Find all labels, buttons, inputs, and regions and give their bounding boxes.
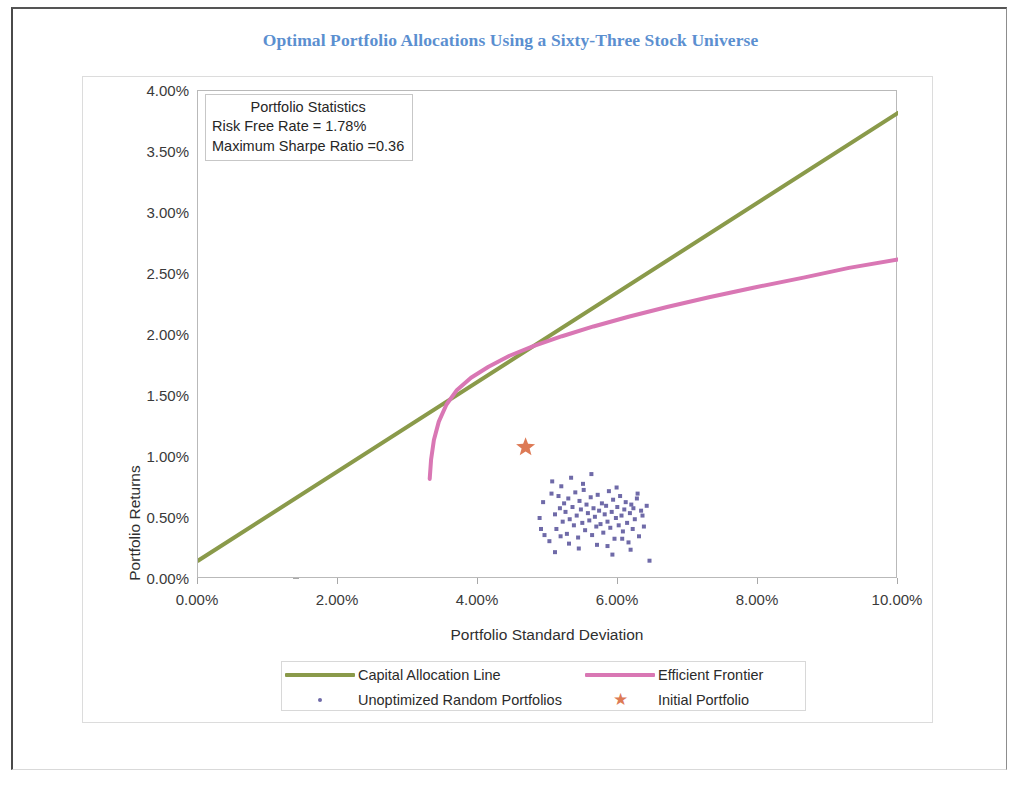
scatter-point: [538, 516, 542, 520]
scatter-point: [550, 479, 554, 483]
scatter-point: [590, 533, 594, 537]
y-axis-tick-label: 1.50%: [109, 387, 189, 404]
scatter-point: [559, 484, 563, 488]
y-axis-tick-label: 2.00%: [109, 326, 189, 343]
scatter-point: [580, 521, 584, 525]
scatter-point: [599, 522, 603, 526]
y-axis-tick-label: 0.00%: [109, 570, 189, 587]
legend-item[interactable]: ★Initial Portfolio: [582, 687, 807, 712]
statistics-heading: Portfolio Statistics: [212, 98, 404, 117]
scatter-point: [573, 490, 577, 494]
x-axis-tick-mark: [897, 578, 898, 584]
scatter-point: [559, 534, 563, 538]
x-axis-tick-label: 0.00%: [137, 591, 257, 608]
scatter-point: [583, 528, 587, 532]
scatter-point: [611, 498, 615, 502]
legend-dot-swatch: [318, 698, 322, 702]
scatter-point: [615, 505, 619, 509]
y-axis-tick-label: 3.50%: [109, 143, 189, 160]
plot-canvas: [198, 91, 898, 579]
legend-item[interactable]: Capital Allocation Line: [282, 662, 582, 687]
max-sharpe-ratio-text: Maximum Sharpe Ratio =0.36: [212, 137, 404, 156]
legend-item[interactable]: Efficient Frontier: [582, 662, 807, 687]
y-axis-tick-label: 1.00%: [109, 448, 189, 465]
scatter-point: [547, 539, 551, 543]
scatter-point: [543, 533, 547, 537]
scatter-point: [607, 489, 611, 493]
legend-line-swatch: [585, 673, 655, 677]
scatter-point: [558, 506, 562, 510]
scatter-point: [636, 492, 640, 496]
scatter-point: [541, 500, 545, 504]
legend-key-dot: [282, 698, 358, 702]
y-axis-tick-labels: 0.00%0.50%1.00%1.50%2.00%2.50%3.00%3.50%…: [103, 90, 189, 578]
scatter-point: [620, 514, 624, 518]
scatter-point: [610, 510, 614, 514]
scatter-point: [562, 501, 566, 505]
scatter-point: [603, 512, 607, 516]
scatter-point: [594, 525, 598, 529]
scatter-point: [576, 536, 580, 540]
scatter-point: [631, 527, 635, 531]
scatter-point: [578, 499, 582, 503]
scatter-point: [601, 531, 605, 535]
x-axis-tick-label: 8.00%: [697, 591, 817, 608]
risk-free-rate-text: Risk Free Rate = 1.78%: [212, 117, 404, 136]
x-axis-tick-mark: [197, 578, 198, 584]
scatter-point: [596, 493, 600, 497]
plot-area: [197, 90, 897, 578]
series-line-capital-allocation-line: [198, 113, 898, 561]
scatter-point: [585, 503, 589, 507]
scatter-point: [618, 494, 622, 498]
scatter-point: [553, 512, 557, 516]
legend-item[interactable]: Unoptimized Random Portfolios: [282, 687, 582, 712]
legend-key-line: [582, 673, 658, 677]
x-axis-tick-mark: [617, 578, 618, 584]
scatter-point: [589, 472, 593, 476]
initial-portfolio-star-marker: [516, 437, 535, 455]
legend-label: Capital Allocation Line: [358, 667, 501, 683]
scatter-point: [620, 537, 624, 541]
legend-key-star: ★: [582, 691, 658, 708]
scatter-point: [606, 520, 610, 524]
scatter-point: [566, 496, 570, 500]
legend-key-line: [282, 673, 358, 677]
scatter-point: [557, 494, 561, 498]
x-axis-tick-label: 10.00%: [837, 591, 957, 608]
scatter-point: [606, 544, 610, 548]
scatter-point: [633, 517, 637, 521]
scatter-point: [569, 476, 573, 480]
scatter-point: [642, 525, 646, 529]
scatter-point: [614, 516, 618, 520]
scatter-point: [539, 527, 543, 531]
y-axis-tick-label: 4.00%: [109, 82, 189, 99]
scatter-point: [561, 520, 565, 524]
portfolio-statistics-box: Portfolio Statistics Risk Free Rate = 1.…: [205, 94, 413, 161]
scatter-point: [597, 509, 601, 513]
scatter-point: [637, 534, 641, 538]
scatter-point: [553, 550, 557, 554]
x-axis-tick-mark: [477, 578, 478, 584]
scatter-point: [581, 482, 585, 486]
scatter-point: [635, 496, 639, 500]
scatter-point: [582, 488, 586, 492]
x-axis-tick-label: 6.00%: [557, 591, 677, 608]
scatter-point: [568, 517, 572, 521]
scatter-point: [571, 505, 575, 509]
scatter-point: [628, 511, 632, 515]
scatter-point: [564, 510, 568, 514]
scatter-point: [592, 506, 596, 510]
scatter-point: [629, 548, 633, 552]
y-axis-tick-label: 0.50%: [109, 509, 189, 526]
scatter-point: [617, 523, 621, 527]
legend-label: Initial Portfolio: [658, 692, 749, 708]
legend-star-swatch: ★: [613, 691, 628, 708]
legend-label: Unoptimized Random Portfolios: [358, 692, 562, 708]
scatter-point: [610, 553, 614, 557]
x-axis-tick-mark: [337, 578, 338, 584]
scatter-point: [624, 500, 628, 504]
x-axis-title: Portfolio Standard Deviation: [197, 626, 897, 644]
random-portfolios-scatter: [538, 472, 652, 563]
scatter-point: [577, 547, 581, 551]
scatter-point: [575, 514, 579, 518]
